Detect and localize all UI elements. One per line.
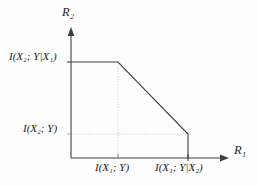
y-axis-arrowhead <box>68 27 75 36</box>
x-axis-tick-label-left: I(X₁; Y) <box>95 162 129 173</box>
y-axis-tick-label-upper: I(X₂; Y|X₁) <box>9 51 57 62</box>
x-axis-arrowhead <box>220 155 229 162</box>
y-axis-tick-label-lower: I(X₂; Y) <box>23 123 57 134</box>
x-axis-tick-label-right: I(X₁; Y|X₂) <box>155 162 203 173</box>
y-axis-name-label: R₂ <box>62 6 74 19</box>
capacity-region-plot <box>0 0 258 186</box>
capacity-region-boundary <box>71 62 188 158</box>
figure-canvas: I(X₂; Y|X₁) I(X₂; Y) I(X₁; Y) I(X₁; Y|X₂… <box>0 0 258 186</box>
x-axis-name-label: R₁ <box>234 144 246 157</box>
